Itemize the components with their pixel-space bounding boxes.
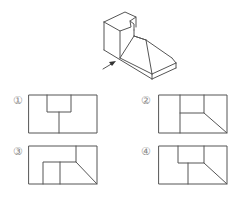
diagram-canvas: ① ② ③ ④ (0, 0, 241, 199)
option-label: ② (141, 94, 151, 107)
slope-end-edge (172, 58, 176, 63)
option-3[interactable]: ③ (13, 145, 97, 184)
option-1[interactable]: ① (13, 94, 97, 133)
base-top-right-edge (152, 63, 176, 74)
option-label: ④ (141, 145, 151, 158)
slope-front-edge (146, 40, 152, 74)
ridge-edge (134, 36, 146, 40)
view-direction-arrow (103, 61, 116, 69)
base-top-front-edge (120, 58, 152, 74)
slope-left-edge (120, 36, 134, 58)
view-outline (159, 95, 227, 133)
isometric-object (104, 12, 176, 79)
option-label: ③ (13, 145, 23, 158)
option-label: ① (13, 94, 23, 107)
base-bottom-right-edge (152, 68, 176, 79)
slope-top-edge (146, 40, 172, 58)
view-outline (29, 95, 97, 133)
option-4[interactable]: ④ (141, 145, 227, 184)
option-2[interactable]: ② (141, 94, 227, 133)
view-outline (159, 146, 227, 184)
view-outline (29, 146, 97, 184)
